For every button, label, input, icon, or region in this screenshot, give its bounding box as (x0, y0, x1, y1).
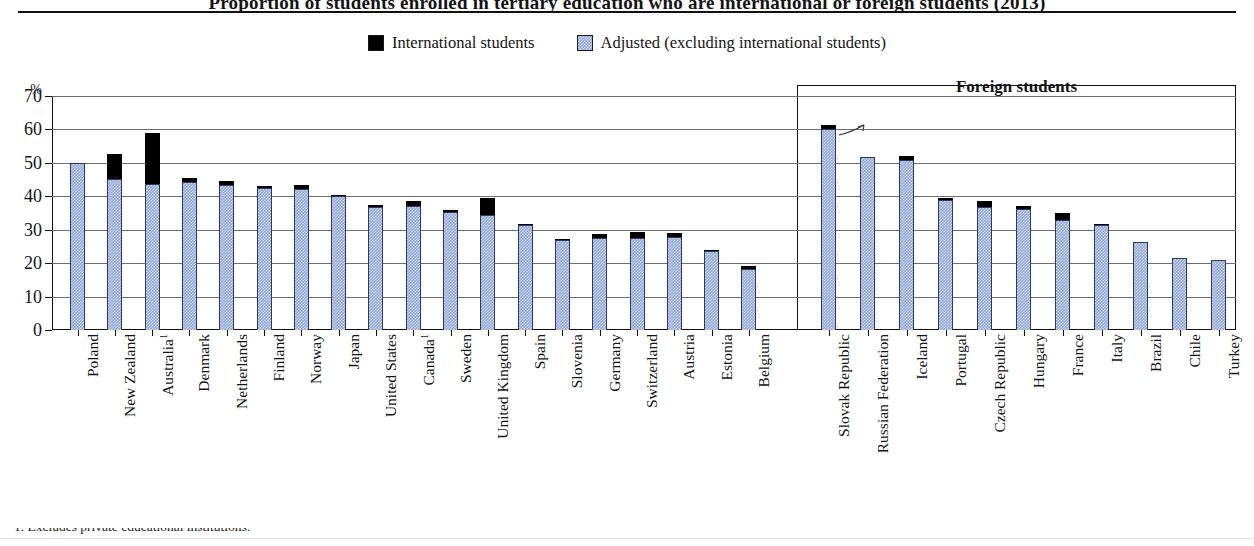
category-label: Norway (307, 334, 325, 384)
bar-international-18 (741, 266, 756, 330)
bar-segment-adjusted (480, 215, 495, 330)
y-axis-tick-label: 40 (24, 187, 42, 205)
bar-segment-international (938, 198, 953, 200)
category-label: Italy (1108, 334, 1126, 362)
category-label: Estonia (718, 334, 736, 381)
bar-segment-adjusted (443, 212, 458, 330)
bar-segment-adjusted (368, 207, 383, 330)
category-label: Belgium (755, 334, 773, 387)
bar-segment-adjusted (219, 185, 234, 330)
bar-international-11 (480, 198, 495, 330)
bar-segment-international (182, 178, 197, 182)
bar-foreign-6 (1055, 213, 1070, 330)
bar-segment-international (257, 186, 272, 188)
bar-segment-adjusted (518, 225, 533, 330)
bar-international-15 (630, 232, 645, 330)
bar-segment-adjusted (107, 179, 122, 330)
category-label: Spain (531, 334, 549, 369)
category-labels: PolandNew ZealandAustralia1DenmarkNether… (52, 330, 1236, 490)
foreign-students-panel-label: Foreign students (798, 77, 1235, 97)
bar-international-3 (182, 178, 197, 330)
bar-foreign-1 (860, 157, 875, 330)
category-label: Netherlands (233, 334, 251, 409)
category-label: Finland (270, 334, 288, 381)
plot-axes: Foreign students (52, 96, 1236, 330)
bar-segment-international (555, 239, 570, 240)
y-axis-tick (45, 297, 52, 298)
category-label: Germany (606, 334, 624, 392)
bar-segment-international (1016, 206, 1031, 209)
chart-plot-area: % 010203040506070 Foreign students Polan… (0, 78, 1254, 348)
bar-international-2 (145, 133, 160, 330)
footnote: 1. Excludes private educational institut… (14, 528, 250, 535)
blue-square-swatch-icon (577, 35, 593, 51)
bar-segment-adjusted (70, 163, 85, 330)
bar-segment-adjusted (592, 238, 607, 330)
bar-foreign-7 (1094, 225, 1109, 330)
y-axis-tick-label: 60 (24, 120, 42, 138)
bar-segment-adjusted (257, 188, 272, 330)
bar-foreign-0 (821, 125, 836, 330)
category-label: Chile (1186, 334, 1204, 368)
gridline (52, 129, 1236, 130)
bar-segment-international (899, 156, 914, 159)
bar-international-9 (406, 201, 421, 330)
bar-segment-international (406, 201, 421, 206)
category-label: Czech Republic (991, 334, 1009, 433)
bar-segment-adjusted (860, 157, 875, 330)
y-axis: % 010203040506070 (0, 78, 48, 348)
bar-segment-adjusted (1055, 220, 1070, 330)
bar-international-5 (257, 186, 272, 330)
bar-foreign-5 (1016, 206, 1031, 330)
bar-segment-international (977, 201, 992, 206)
bar-segment-adjusted (555, 240, 570, 330)
category-label: Austria (680, 334, 698, 380)
chart-legend: International students Adjusted (excludi… (0, 30, 1254, 56)
bar-international-0 (70, 163, 85, 330)
category-label: New Zealand (121, 334, 139, 417)
category-label: Brazil (1147, 334, 1165, 372)
bar-foreign-9 (1172, 258, 1187, 330)
gridline (52, 96, 1236, 97)
bar-segment-international (368, 205, 383, 207)
bar-segment-adjusted (899, 160, 914, 330)
black-square-swatch-icon (368, 35, 384, 51)
bar-international-17 (704, 250, 719, 330)
category-label: Iceland (913, 334, 931, 380)
y-axis-tick-label: 10 (24, 288, 42, 306)
category-label: Canada1 (419, 334, 438, 385)
y-axis-tick (45, 196, 52, 197)
category-label: Switzerland (643, 334, 661, 408)
bar-segment-international (741, 266, 756, 269)
bar-international-13 (555, 239, 570, 330)
bar-segment-adjusted (182, 182, 197, 330)
y-axis-spine (52, 96, 53, 330)
legend-label-adjusted: Adjusted (excluding international studen… (601, 33, 886, 53)
bar-segment-adjusted (938, 200, 953, 330)
bar-segment-adjusted (1133, 242, 1148, 330)
bar-segment-international (219, 181, 234, 185)
category-label: Slovak Republic (835, 334, 853, 437)
bar-segment-international (107, 154, 122, 179)
category-label: Portugal (952, 334, 970, 387)
bar-segment-adjusted (331, 196, 346, 330)
y-axis-tick-label: 70 (24, 87, 42, 105)
bar-international-16 (667, 233, 682, 330)
bar-international-14 (592, 234, 607, 330)
bar-segment-international (704, 250, 719, 251)
y-axis-tick-label: 50 (24, 154, 42, 172)
y-axis-tick (45, 330, 52, 331)
bar-segment-adjusted (1016, 209, 1031, 330)
bar-segment-adjusted (1172, 258, 1187, 330)
bar-international-6 (294, 185, 309, 330)
category-label: Sweden (457, 334, 475, 383)
y-axis-tick (45, 163, 52, 164)
bar-segment-international (518, 224, 533, 225)
chart-title-clip: Proportion of students enrolled in terti… (0, 0, 1254, 16)
bar-segment-international (331, 195, 346, 196)
bar-segment-international (630, 232, 645, 239)
bar-segment-adjusted (145, 184, 160, 330)
category-label: Australia1 (158, 334, 177, 396)
bar-segment-adjusted (1211, 260, 1226, 330)
bar-foreign-8 (1133, 242, 1148, 330)
